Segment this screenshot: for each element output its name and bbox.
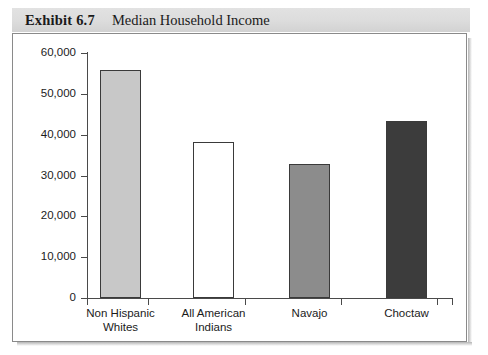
exhibit-header: Exhibit 6.7 Median Household Income xyxy=(12,8,470,32)
exhibit-figure: Exhibit 6.7 Median Household Income 60,0… xyxy=(0,0,488,355)
frame-shadow-bottom xyxy=(17,342,472,346)
exhibit-title: Median Household Income xyxy=(112,12,270,29)
exhibit-number-label: Exhibit 6.7 xyxy=(25,12,95,29)
frame-shadow-right xyxy=(468,38,472,346)
chart-frame xyxy=(12,33,467,342)
